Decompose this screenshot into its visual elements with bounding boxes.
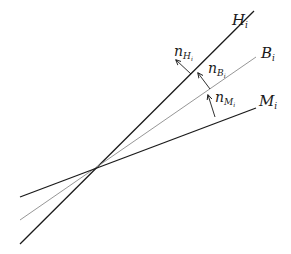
label-h-main: H (231, 11, 246, 29)
label-nm-subsub: i (233, 101, 235, 108)
line-m (20, 108, 256, 197)
label-nh: nHi (174, 43, 193, 62)
label-nb: nBi (208, 60, 226, 79)
label-b-sub: i (272, 53, 275, 63)
label-nb-main: n (208, 60, 217, 76)
label-h-sub: i (245, 20, 248, 30)
normal-arrow-m (208, 95, 215, 117)
label-nh-sub: H (182, 51, 191, 61)
label-m-sub: i (274, 101, 277, 111)
label-nh-main: n (174, 43, 183, 59)
label-nm: nMi (215, 89, 235, 108)
label-nb-subsub: i (224, 72, 226, 79)
label-nh-subsub: i (191, 55, 193, 62)
label-m-main: M (258, 92, 275, 110)
diagram-canvas: Hi Bi Mi nHi nBi nMi (0, 0, 291, 254)
label-m: Mi (258, 92, 277, 111)
line-b (20, 57, 256, 220)
label-h: Hi (231, 11, 248, 30)
normal-arrow-h (176, 60, 191, 74)
label-b-main: B (260, 44, 272, 62)
line-h (20, 11, 254, 244)
label-b: Bi (260, 44, 275, 63)
label-nm-main: n (215, 89, 224, 105)
